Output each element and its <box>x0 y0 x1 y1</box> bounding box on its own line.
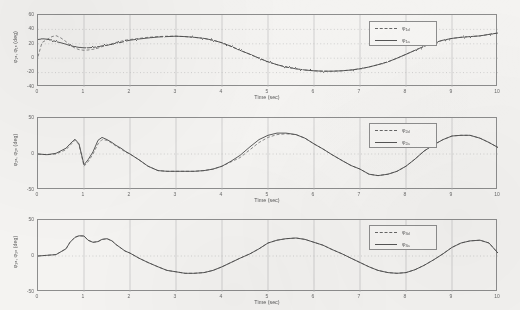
subplot-phi2: 50 0 -50 0 1 2 3 4 5 6 7 8 9 10 φ₂ₐ, φ₂ₑ… <box>0 103 520 205</box>
xtick-phi3-3: 3 <box>170 293 180 299</box>
ylabel-phi1: φ₁ₐ, φ₁ₑ (deg) <box>12 17 18 77</box>
legend-solid-line-icon <box>375 142 397 143</box>
legend-phi2: φ2d φ2a <box>369 123 437 148</box>
xtick-phi3-6: 6 <box>308 293 318 299</box>
xlabel-phi3: Time (sec) <box>237 299 297 305</box>
ytick-phi3-0: 50 <box>20 216 34 222</box>
ytick-phi1-0: 60 <box>20 11 34 17</box>
ytick-phi1-4: -20 <box>20 68 34 74</box>
legend-label-phi2a: φ2a <box>402 139 410 145</box>
ytick-phi2-0: 50 <box>20 114 34 120</box>
legend-row-phi3a: φ3a <box>370 239 436 249</box>
ylabel-phi3: φ₃ₐ, φ₃ₑ (deg) <box>12 222 18 282</box>
xtick-phi3-10: 10 <box>492 293 502 299</box>
xtick-phi1-10: 10 <box>492 88 502 94</box>
subplot-phi1: 60 40 20 0 -20 -40 0 1 2 3 4 5 6 7 8 9 1… <box>0 0 520 103</box>
legend-row-phi3d: φ3d <box>370 227 436 237</box>
xtick-phi1-0: 0 <box>32 88 42 94</box>
xtick-phi1-1: 1 <box>78 88 88 94</box>
legend-label-phi3a: φ3a <box>402 241 410 247</box>
xtick-phi3-0: 0 <box>32 293 42 299</box>
ytick-phi1-3: 0 <box>20 54 34 60</box>
ytick-phi2-1: 0 <box>20 150 34 156</box>
legend-label-phi1d: φ1d <box>402 25 410 31</box>
xtick-phi2-0: 0 <box>32 191 42 197</box>
xtick-phi3-9: 9 <box>446 293 456 299</box>
xtick-phi2-9: 9 <box>446 191 456 197</box>
legend-phi1: φ1d φ1a <box>369 21 437 46</box>
xtick-phi3-2: 2 <box>124 293 134 299</box>
legend-label-phi1a: φ1a <box>402 37 410 43</box>
xtick-phi1-8: 8 <box>400 88 410 94</box>
xtick-phi1-9: 9 <box>446 88 456 94</box>
xtick-phi2-8: 8 <box>400 191 410 197</box>
xtick-phi2-1: 1 <box>78 191 88 197</box>
xtick-phi1-2: 2 <box>124 88 134 94</box>
legend-dashed-line-icon <box>375 130 397 131</box>
xtick-phi2-6: 6 <box>308 191 318 197</box>
xtick-phi1-3: 3 <box>170 88 180 94</box>
xlabel-phi1: Time (sec) <box>237 94 297 100</box>
subplot-phi3: 50 0 -50 0 1 2 3 4 5 6 7 8 9 10 φ₃ₐ, φ₃ₑ… <box>0 205 520 310</box>
legend-row-phi2a: φ2a <box>370 137 436 147</box>
xtick-phi2-4: 4 <box>216 191 226 197</box>
legend-dashed-line-icon <box>375 28 397 29</box>
xtick-phi2-3: 3 <box>170 191 180 197</box>
xtick-phi2-7: 7 <box>354 191 364 197</box>
xtick-phi2-10: 10 <box>492 191 502 197</box>
legend-dashed-line-icon <box>375 232 397 233</box>
xtick-phi2-2: 2 <box>124 191 134 197</box>
xtick-phi1-4: 4 <box>216 88 226 94</box>
legend-row-phi2d: φ2d <box>370 125 436 135</box>
ytick-phi1-1: 40 <box>20 25 34 31</box>
xtick-phi3-8: 8 <box>400 293 410 299</box>
xlabel-phi2: Time (sec) <box>237 197 297 203</box>
legend-label-phi2d: φ2d <box>402 127 410 133</box>
ytick-phi3-1: 0 <box>20 252 34 258</box>
ylabel-phi2: φ₂ₐ, φ₂ₑ (deg) <box>12 120 18 180</box>
legend-row-phi1d: φ1d <box>370 23 436 33</box>
figure-canvas: 60 40 20 0 -20 -40 0 1 2 3 4 5 6 7 8 9 1… <box>0 0 520 310</box>
xtick-phi1-7: 7 <box>354 88 364 94</box>
legend-phi3: φ3d φ3a <box>369 225 437 250</box>
xtick-phi3-7: 7 <box>354 293 364 299</box>
legend-label-phi3d: φ3d <box>402 229 410 235</box>
xtick-phi3-1: 1 <box>78 293 88 299</box>
legend-solid-line-icon <box>375 40 397 41</box>
xtick-phi1-6: 6 <box>308 88 318 94</box>
ytick-phi1-2: 20 <box>20 40 34 46</box>
legend-solid-line-icon <box>375 244 397 245</box>
legend-row-phi1a: φ1a <box>370 35 436 45</box>
xtick-phi3-4: 4 <box>216 293 226 299</box>
